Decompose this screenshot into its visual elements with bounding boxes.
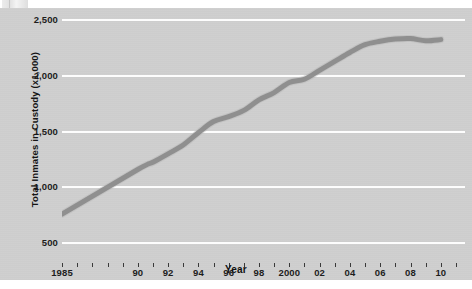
x-axis: 1985909294969820000204060810 (62, 19, 465, 279)
chart-figure: 2,500 2,000 1,500 1,000 500 Total Inmate… (0, 0, 472, 289)
x-axis-title: Year (0, 264, 472, 275)
y-tick-label-500: 500 (2, 237, 58, 248)
y-axis-title: Total Inmates in Custody (x1,000) (29, 30, 40, 230)
y-axis-title-wrapper: Total Inmates in Custody (x1,000) (14, 12, 36, 236)
